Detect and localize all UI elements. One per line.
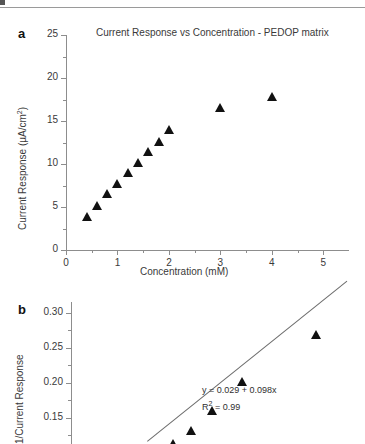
panel-a-x-tick bbox=[117, 250, 118, 255]
panel-a-x-minor-tick bbox=[246, 250, 247, 253]
panel-a-x-tick-label: 1 bbox=[107, 257, 127, 268]
panel-b-data-point bbox=[186, 426, 196, 435]
panel-b-y-minor-tick bbox=[68, 330, 71, 331]
panel-b-y-minor-tick bbox=[68, 400, 71, 401]
panel-b-label: b bbox=[18, 302, 26, 317]
panel-a-x-tick-label: 5 bbox=[313, 257, 333, 268]
panel-a-y-tick-label: 5 bbox=[26, 200, 58, 211]
panel-b-fit-line bbox=[147, 281, 347, 442]
panel-a-y-minor-tick bbox=[63, 186, 66, 187]
panel-a-y-minor-tick bbox=[63, 143, 66, 144]
header-divider-rule bbox=[0, 7, 365, 8]
panel-a-label: a bbox=[18, 26, 25, 41]
panel-a-data-point bbox=[133, 158, 143, 167]
panel-a-data-point bbox=[215, 103, 225, 112]
panel-b-y-axis bbox=[71, 302, 72, 444]
panel-a-x-minor-tick bbox=[195, 250, 196, 253]
panel-a-data-point bbox=[82, 212, 92, 221]
panel-a-plot-area: 0510152025012345 bbox=[66, 35, 349, 250]
fit-r2-text: R2 = 0.99 bbox=[202, 397, 277, 414]
panel-a-y-tick bbox=[61, 207, 66, 208]
panel-a-y-tick-label: 15 bbox=[26, 114, 58, 125]
panel-b: b 1/Current Response 0.100.150.200.250.3… bbox=[0, 296, 365, 444]
panel-b-y-tick bbox=[66, 418, 71, 419]
panel-a-x-tick-label: 0 bbox=[56, 257, 76, 268]
panel-a-x-tick bbox=[66, 250, 67, 255]
figure-page: a Current Response vs Concentration - PE… bbox=[0, 0, 365, 444]
panel-b-data-point bbox=[311, 330, 321, 339]
panel-a-x-axis bbox=[66, 250, 349, 251]
panel-b-data-point bbox=[168, 439, 178, 444]
panel-a-y-minor-tick bbox=[63, 57, 66, 58]
panel-b-plot-area: 0.100.150.200.250.30 bbox=[71, 302, 349, 444]
panel-a-data-point bbox=[123, 168, 133, 177]
panel-b-y-tick bbox=[66, 313, 71, 314]
panel-a-y-tick bbox=[61, 35, 66, 36]
panel-a-data-point bbox=[164, 125, 174, 134]
panel-a: a Current Response vs Concentration - PE… bbox=[0, 18, 365, 280]
panel-a-x-tick bbox=[220, 250, 221, 255]
panel-b-y-tick-label: 0.20 bbox=[29, 376, 63, 387]
panel-b-y-axis-label: 1/Current Response bbox=[14, 355, 25, 444]
panel-a-x-axis-label: Concentration (mM) bbox=[140, 266, 228, 277]
panel-a-data-point bbox=[112, 179, 122, 188]
panel-b-y-tick bbox=[66, 348, 71, 349]
panel-b-y-tick-label: 0.25 bbox=[29, 341, 63, 352]
panel-a-y-tick-label: 0 bbox=[26, 243, 58, 254]
panel-a-x-tick bbox=[169, 250, 170, 255]
panel-a-data-point bbox=[102, 189, 112, 198]
panel-a-data-point bbox=[143, 147, 153, 156]
panel-a-y-tick-label: 20 bbox=[26, 71, 58, 82]
page-corner-mark bbox=[0, 0, 5, 5]
panel-a-y-minor-tick bbox=[63, 100, 66, 101]
panel-a-y-tick bbox=[61, 121, 66, 122]
panel-b-y-minor-tick bbox=[68, 365, 71, 366]
panel-a-x-minor-tick bbox=[92, 250, 93, 253]
panel-a-y-axis-label: Current Response (µA/cm2) bbox=[16, 107, 28, 230]
panel-a-data-point bbox=[92, 201, 102, 210]
panel-a-y-minor-tick bbox=[63, 229, 66, 230]
panel-b-fit-annotation: y = 0.029 + 0.098x R2 = 0.99 bbox=[202, 384, 277, 414]
panel-a-y-tick bbox=[61, 78, 66, 79]
panel-a-x-tick bbox=[272, 250, 273, 255]
panel-b-y-tick bbox=[66, 383, 71, 384]
panel-b-y-minor-tick bbox=[68, 435, 71, 436]
panel-a-x-minor-tick bbox=[298, 250, 299, 253]
panel-a-data-point bbox=[267, 92, 277, 101]
panel-b-y-tick-label: 0.15 bbox=[29, 411, 63, 422]
panel-b-y-tick-label: 0.30 bbox=[29, 306, 63, 317]
panel-a-x-tick bbox=[323, 250, 324, 255]
fit-equation-text: y = 0.029 + 0.098x bbox=[202, 384, 277, 397]
panel-a-y-axis bbox=[66, 35, 67, 250]
panel-a-x-tick-label: 4 bbox=[262, 257, 282, 268]
panel-a-y-tick-label: 10 bbox=[26, 157, 58, 168]
panel-a-y-tick bbox=[61, 164, 66, 165]
panel-a-data-point bbox=[154, 137, 164, 146]
panel-a-x-minor-tick bbox=[143, 250, 144, 253]
panel-a-y-tick-label: 25 bbox=[26, 28, 58, 39]
